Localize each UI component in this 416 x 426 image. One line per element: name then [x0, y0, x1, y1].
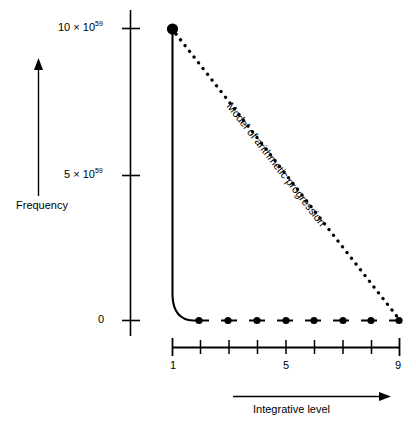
series-observed-frequency-curve — [173, 30, 194, 321]
series-peak-marker — [167, 23, 178, 34]
x-axis-tick-label-5: 5 — [283, 360, 289, 371]
series-zero-baseline — [193, 317, 403, 324]
y-axis-tick-label-mid-exponent: 59 — [95, 167, 103, 174]
y-axis-tick-label-top: 10 × 1059 — [58, 22, 103, 33]
x-axis-title: Integrative level — [253, 404, 330, 415]
y-axis-title: Frequency — [16, 200, 68, 211]
y-axis-direction-arrow — [34, 58, 43, 196]
y-axis-tick-label-mid: 5 × 1059 — [64, 169, 103, 180]
x-axis-tick-label-9: 9 — [395, 360, 401, 371]
chart-plot-area — [0, 0, 416, 426]
x-axis-tick-label-1: 1 — [170, 360, 176, 371]
y-axis-tick-label-zero: 0 — [98, 314, 104, 325]
x-axis-direction-arrow — [233, 392, 391, 401]
y-axis-tick-label-mid-mantissa: 5 × 10 — [64, 168, 95, 180]
y-axis-tick-label-top-mantissa: 10 × 10 — [58, 21, 95, 33]
chart-container: 10 × 1059 5 × 1059 0 Frequency 1 5 9 Int… — [0, 0, 416, 426]
y-axis-tick-label-top-exponent: 59 — [95, 20, 103, 27]
